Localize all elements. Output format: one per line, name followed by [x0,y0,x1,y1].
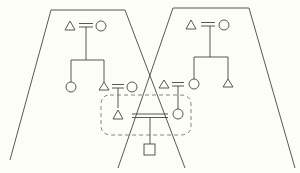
male-triangle-icon [159,80,169,88]
male-triangle-icon [113,110,123,119]
male-triangle-icon [65,21,75,30]
child-square-icon [144,144,155,155]
male-triangle-icon [186,20,196,29]
right-family [159,20,233,109]
female-circle-icon [96,21,106,31]
male-triangle-icon [223,79,233,87]
female-circle-icon [189,79,199,89]
female-circle-icon [173,109,183,119]
female-circle-icon [219,20,229,30]
female-circle-icon [127,82,137,92]
female-circle-icon [66,82,76,92]
left-kin-group-outline [10,10,185,168]
male-triangle-icon [99,82,109,90]
intergroup-marriage [101,95,191,155]
diagram-canvas [0,0,300,173]
